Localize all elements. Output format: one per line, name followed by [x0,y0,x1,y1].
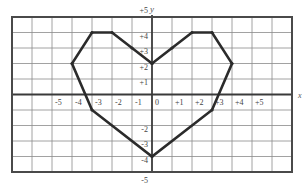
y-tick-label: +3 [139,47,148,56]
x-tick-label: +2 [195,98,204,107]
y-tick-label: +1 [139,78,148,87]
vertex-dot [70,62,73,65]
x-tick-label: -5 [55,98,62,107]
y-axis-tick-labels: +5+4+3+2+1-2-3-4-5 [139,6,148,185]
x-tick-label: -3 [95,98,102,107]
x-tick-label: +4 [235,98,244,107]
x-tick-label: -1 [135,98,142,107]
x-tick-label: -4 [75,98,82,107]
x-tick-label: +3 [215,98,224,107]
vertex-dot [90,31,93,34]
x-tick-label: +1 [175,98,184,107]
y-tick-label: -3 [141,140,148,149]
y-axis-label: y [149,4,154,14]
heart-on-grid-plot: -5-4-3-2-10+1+2+3+4+5 +5+4+3+2+1-2-3-4-5… [0,0,306,194]
vertex-dot [90,108,93,111]
x-tick-label: +5 [255,98,264,107]
y-tick-label: -5 [141,176,148,185]
vertex-dot [150,155,153,158]
vertex-dot [230,62,233,65]
y-tick-label: -4 [141,156,148,165]
y-tick-label: +4 [139,32,148,41]
x-axis-label: x [297,91,302,100]
coordinate-grid-diagram: -5-4-3-2-10+1+2+3+4+5 +5+4+3+2+1-2-3-4-5… [0,0,306,194]
y-tick-label: -2 [141,125,148,134]
vertex-dot [170,46,173,49]
vertex-dot [210,108,213,111]
x-tick-label: -2 [115,98,122,107]
axes [12,15,292,172]
x-tick-label: 0 [155,98,159,107]
vertex-dot [210,31,213,34]
vertex-dot [190,31,193,34]
y-tick-label: +5 [139,6,148,15]
y-tick-label: +2 [139,63,148,72]
vertex-dot [110,31,113,34]
vertex-dot [150,62,153,65]
vertex-dot [130,46,133,49]
